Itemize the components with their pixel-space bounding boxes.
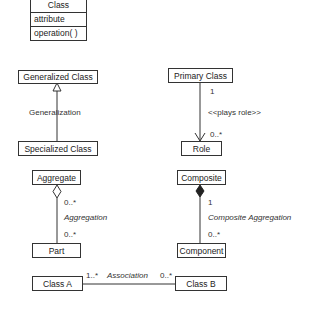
plays-role-label: <<plays role>> [208, 108, 261, 117]
connector-layer [0, 0, 310, 322]
class-notation-box: Class attribute operation( ) [30, 0, 87, 41]
composite-box: Composite [177, 170, 226, 185]
class-operation: operation( ) [31, 26, 86, 40]
generalization-arrowhead-icon [53, 83, 61, 91]
uml-notation-diagram: Class attribute operation( ) Generalized… [0, 0, 310, 322]
role-target-multiplicity: 0..* [210, 130, 222, 139]
part-box: Part [32, 243, 81, 258]
aggregate-box: Aggregate [32, 170, 81, 185]
generalized-class-box: Generalized Class [18, 70, 98, 84]
association-label: Association [107, 271, 148, 280]
class-attribute: attribute [31, 12, 86, 26]
composition-label: Composite Aggregation [208, 213, 291, 222]
primary-class-box: Primary Class [168, 68, 233, 83]
composition-part-multiplicity: 0..* [208, 230, 220, 239]
role-box: Role [181, 141, 222, 156]
hollow-diamond-icon [53, 185, 61, 198]
filled-diamond-icon [196, 185, 204, 197]
aggregation-label: Aggregation [64, 213, 107, 222]
role-source-multiplicity: 1 [210, 87, 214, 96]
composition-whole-multiplicity: 1 [208, 198, 212, 207]
class-b-box: Class B [175, 276, 227, 291]
association-left-multiplicity: 1..* [86, 271, 98, 280]
specialized-class-box: Specialized Class [18, 141, 98, 156]
aggregation-whole-multiplicity: 0..* [64, 198, 76, 207]
association-right-multiplicity: 0..* [160, 271, 172, 280]
component-box: Component [177, 243, 226, 258]
class-name: Class [31, 0, 86, 12]
aggregation-part-multiplicity: 0..* [64, 230, 76, 239]
class-a-box: Class A [32, 276, 83, 291]
generalization-label: Generalization [29, 108, 81, 117]
